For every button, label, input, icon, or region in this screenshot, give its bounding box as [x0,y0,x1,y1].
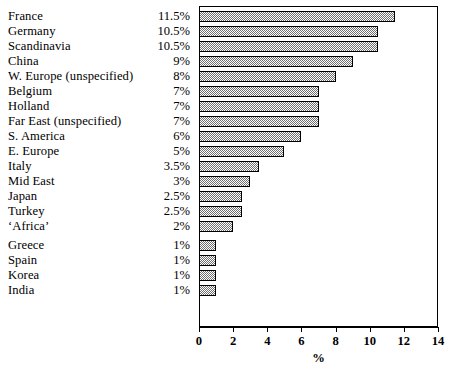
category-row: Scandinavia10.5% [0,39,192,54]
category-label: Italy [8,159,32,174]
bar [199,206,242,217]
category-label: France [8,9,43,24]
category-label: Scandinavia [8,39,71,54]
bar [199,161,259,172]
value-label: 2% [173,219,190,234]
category-label: S. America [8,129,65,144]
category-label-column: France11.5%Germany10.5%Scandinavia10.5%C… [0,0,192,332]
bar [199,116,319,127]
value-label: 1% [173,283,190,298]
value-label: 7% [173,84,190,99]
x-tick-mark [336,327,337,332]
x-tick-mark [199,327,200,332]
category-row: Italy3.5% [0,159,192,174]
category-row: Greece1% [0,238,192,253]
category-label: Japan [8,189,37,204]
category-row: Germany10.5% [0,24,192,39]
bar [199,176,250,187]
x-tick-mark [370,327,371,332]
x-axis-title: % [289,350,349,366]
value-label: 10.5% [157,39,190,54]
category-label: Holland [8,99,49,114]
category-row: E. Europe5% [0,144,192,159]
x-tick-mark [404,327,405,332]
value-label: 2.5% [164,204,190,219]
category-row: Holland7% [0,99,192,114]
category-label: China [8,54,39,69]
category-label: Turkey [8,204,45,219]
category-label: Korea [8,268,39,283]
category-label: Germany [8,24,56,39]
category-row: Belgium7% [0,84,192,99]
category-row: Mid East3% [0,174,192,189]
category-row: Korea1% [0,268,192,283]
value-label: 6% [173,129,190,144]
bar [199,191,242,202]
bar [199,11,395,22]
value-label: 1% [173,238,190,253]
bar [199,131,301,142]
category-row: Spain1% [0,253,192,268]
bar [199,41,378,52]
bar [199,56,353,67]
category-label: W. Europe (unspecified) [8,69,133,84]
bar [199,71,336,82]
category-row: China9% [0,54,192,69]
bar [199,285,216,296]
bar [199,146,284,157]
value-label: 7% [173,99,190,114]
category-label: Belgium [8,84,52,99]
value-label: 9% [173,54,190,69]
value-label: 8% [173,69,190,84]
category-row: ‘Africa’2% [0,219,192,234]
category-label: India [8,283,34,298]
x-tick-mark [438,327,439,332]
x-tick-mark [267,327,268,332]
bars-layer [199,6,439,327]
value-label: 10.5% [157,24,190,39]
category-row: Japan2.5% [0,189,192,204]
category-label: Far East (unspecified) [8,114,121,129]
category-label: ‘Africa’ [8,219,49,234]
category-row: Far East (unspecified)7% [0,114,192,129]
value-label: 11.5% [158,9,190,24]
bar [199,86,319,97]
bar [199,26,378,37]
category-row: S. America6% [0,129,192,144]
value-label: 1% [173,268,190,283]
value-label: 3.5% [164,159,190,174]
category-label: Greece [8,238,44,253]
x-tick-mark [301,327,302,332]
value-label: 1% [173,253,190,268]
bar [199,255,216,266]
bar [199,270,216,281]
x-tick-label: 14 [418,333,451,349]
category-label: E. Europe [8,144,59,159]
category-row: France11.5% [0,9,192,24]
value-label: 3% [173,174,190,189]
value-label: 2.5% [164,189,190,204]
category-label: Mid East [8,174,55,189]
value-label: 5% [173,144,190,159]
bar-chart: France11.5%Germany10.5%Scandinavia10.5%C… [0,0,451,370]
x-tick-mark [233,327,234,332]
bar [199,101,319,112]
category-row: W. Europe (unspecified)8% [0,69,192,84]
bar [199,240,216,251]
bar [199,221,233,232]
value-label: 7% [173,114,190,129]
category-row: Turkey2.5% [0,204,192,219]
category-row: India1% [0,283,192,298]
category-label: Spain [8,253,37,268]
